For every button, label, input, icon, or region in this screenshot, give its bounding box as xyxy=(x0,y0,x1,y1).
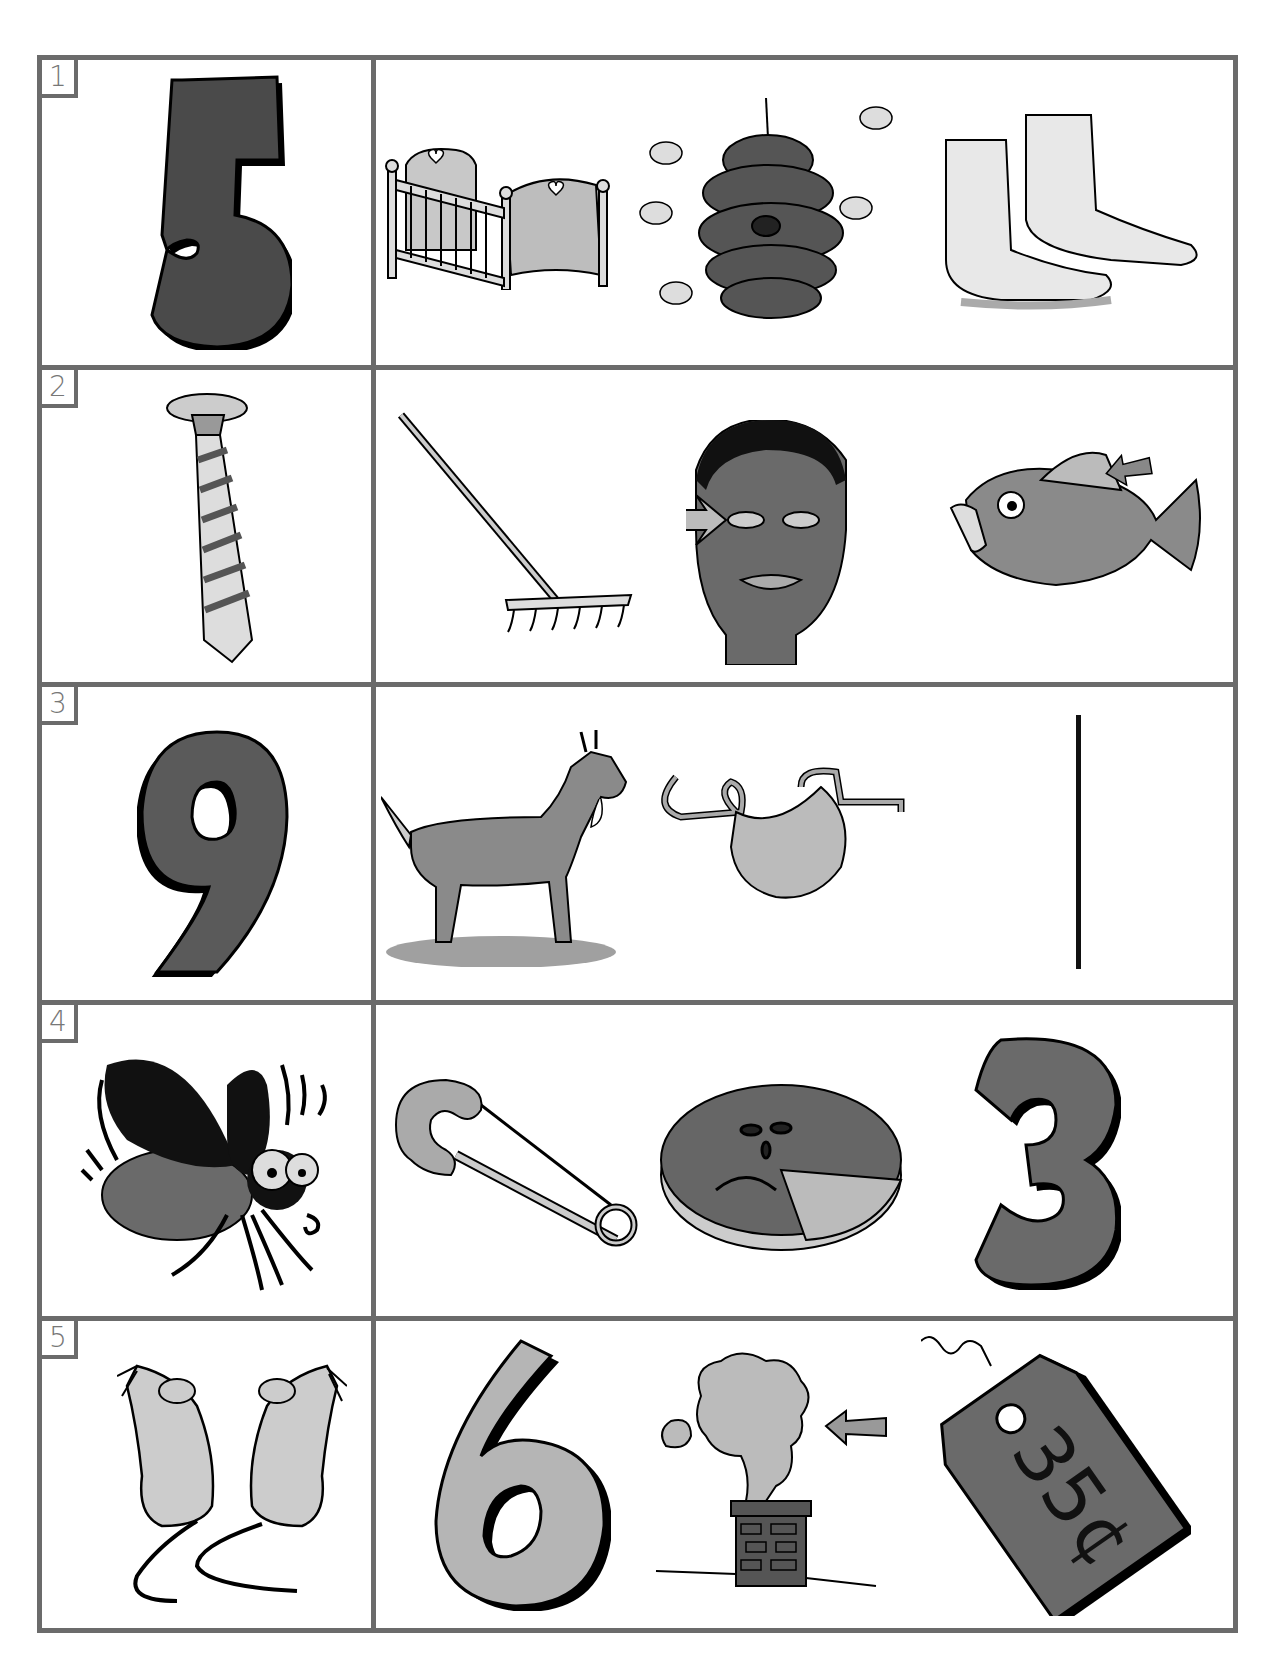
number-three-icon xyxy=(971,1035,1121,1290)
chimney-smoke-icon xyxy=(641,1346,891,1596)
row-5: 5 xyxy=(42,1321,1233,1628)
safety-pin-icon xyxy=(386,1075,641,1255)
row-3: 3 xyxy=(42,687,1233,1005)
choices-cell xyxy=(376,60,1233,365)
number-nine-icon xyxy=(137,727,292,977)
crib-icon xyxy=(376,140,616,290)
beehive-icon xyxy=(636,98,896,323)
fish-fin-icon xyxy=(946,440,1201,605)
row-number-label: 5 xyxy=(42,1321,78,1359)
choices-cell xyxy=(376,1005,1233,1316)
row-number-label: 2 xyxy=(42,370,78,408)
key-picture-cell: 4 xyxy=(42,1005,376,1316)
choices-cell: 35¢ xyxy=(376,1321,1233,1628)
apron-icon xyxy=(656,757,916,902)
straight-line-icon xyxy=(1076,715,1082,969)
key-picture-cell: 5 xyxy=(42,1321,376,1628)
pie-icon xyxy=(656,1070,906,1255)
rake-icon xyxy=(396,410,646,640)
key-picture-cell: 2 xyxy=(42,370,376,682)
key-picture-cell: 1 xyxy=(42,60,376,365)
goat-icon xyxy=(381,727,646,967)
worksheet-grid: 1 xyxy=(37,55,1238,1633)
row-4: 4 xyxy=(42,1005,1233,1321)
row-2: 2 xyxy=(42,370,1233,687)
price-tag-icon: 35¢ xyxy=(921,1326,1191,1616)
two-mice-icon xyxy=(117,1346,347,1611)
number-five-icon xyxy=(142,75,292,350)
choices-cell xyxy=(376,370,1233,682)
choices-cell xyxy=(376,687,1233,1000)
fly-icon xyxy=(67,1045,357,1300)
row-number-label: 3 xyxy=(42,687,78,725)
row-1: 1 xyxy=(42,60,1233,370)
row-number-label: 4 xyxy=(42,1005,78,1043)
feet-icon xyxy=(941,110,1211,315)
necktie-icon xyxy=(162,390,262,670)
key-picture-cell: 3 xyxy=(42,687,376,1000)
number-six-icon xyxy=(426,1336,611,1611)
row-number-label: 1 xyxy=(42,60,78,98)
face-eye-icon xyxy=(686,420,886,665)
